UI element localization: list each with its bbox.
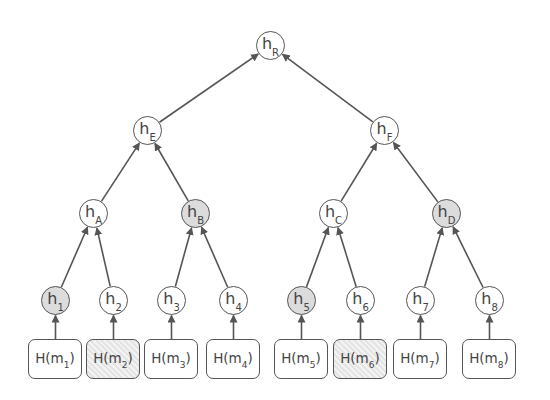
message-hash-box-3: H(m3) [144, 339, 198, 379]
node-h-a: hA [79, 199, 108, 228]
node-h-e: hE [133, 116, 162, 145]
edge-arrow [175, 228, 191, 287]
node-h-8: h8 [475, 286, 504, 315]
node-label: hD [438, 204, 456, 223]
message-hash-box-7: H(m7) [393, 339, 447, 379]
edge-arrow [61, 227, 87, 287]
node-h-3: h3 [157, 286, 186, 315]
node-label: hE [139, 121, 155, 140]
node-label: hR [262, 36, 279, 55]
node-label: h4 [225, 291, 242, 310]
message-hash-box-4: H(m4) [206, 339, 260, 379]
node-h-f: hF [370, 116, 399, 145]
edge-arrow [341, 143, 377, 201]
node-h-7: h7 [406, 286, 435, 315]
node-h-b: hB [181, 199, 210, 228]
node-label: hB [187, 204, 204, 223]
box-label: H(m5) [281, 350, 321, 369]
node-label: hC [325, 204, 342, 223]
edge-arrow [307, 228, 329, 287]
node-h-1: h1 [41, 286, 70, 315]
node-label: hA [85, 204, 102, 223]
message-hash-box-5: H(m5) [274, 339, 328, 379]
node-h-r: hR [256, 31, 285, 60]
edge-arrow [283, 54, 373, 121]
node-label: h2 [105, 291, 122, 310]
box-label: H(m3) [151, 350, 191, 369]
edge-arrow [393, 143, 437, 202]
node-label: h3 [163, 291, 180, 310]
edge-arrow [101, 143, 139, 201]
message-hash-box-6: H(m6) [333, 339, 387, 379]
node-h-4: h4 [219, 286, 248, 315]
edge-arrow [425, 228, 443, 287]
edge-arrow [155, 143, 188, 200]
node-label: h6 [352, 291, 369, 310]
node-label: hF [377, 121, 393, 140]
node-label: h1 [47, 291, 64, 310]
node-h-d: hD [432, 199, 461, 228]
node-h-5: h5 [287, 286, 316, 315]
box-label: H(m2) [93, 350, 133, 369]
message-hash-box-2: H(m2) [86, 339, 140, 379]
edge-arrow [202, 227, 228, 287]
edge-arrow [338, 228, 356, 287]
merkle-tree-diagram: hR hE hF hA hB hC hD h1 h2 h3 h4 h5 h6 h… [0, 0, 550, 400]
box-label: H(m7) [400, 350, 440, 369]
box-label: H(m4) [213, 350, 253, 369]
edge-arrow [159, 54, 258, 122]
node-label: h8 [481, 291, 498, 310]
box-label: H(m6) [340, 350, 380, 369]
node-label: h7 [412, 291, 429, 310]
message-hash-box-1: H(m1) [28, 339, 82, 379]
edge-arrow [453, 227, 483, 288]
node-h-2: h2 [99, 286, 128, 315]
box-label: H(m8) [469, 350, 509, 369]
node-label: h5 [293, 291, 310, 310]
edge-arrow [97, 228, 110, 286]
box-label: H(m1) [35, 350, 75, 369]
message-hash-box-8: H(m8) [462, 339, 516, 379]
node-h-c: hC [319, 199, 348, 228]
node-h-6: h6 [346, 286, 375, 315]
